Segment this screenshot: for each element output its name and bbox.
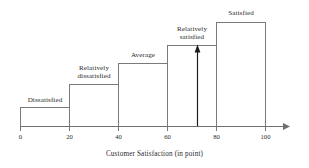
bar-label-dissatisfied: Dissatisfied xyxy=(12,96,78,104)
bar-label-relatively-dissatisfied: Relatively dissatisfied xyxy=(60,64,128,81)
tick-label-100: 100 xyxy=(253,133,278,141)
bar-label-average: Average xyxy=(112,51,174,59)
tick-label-0: 0 xyxy=(8,133,33,141)
bar-label-satisfied: Satisfied xyxy=(209,9,273,17)
tick-label-60: 60 xyxy=(155,133,180,141)
x-axis-arrow-icon xyxy=(283,123,290,130)
bar-dissatisfied xyxy=(21,108,70,127)
x-axis-ticks xyxy=(21,127,266,132)
tick-label-40: 40 xyxy=(106,133,131,141)
bar-series xyxy=(21,23,266,127)
x-axis-caption: Customer Satisfaction (in point) xyxy=(0,150,309,159)
bar-relatively-satisfied xyxy=(168,46,217,127)
bar-relatively-dissatisfied xyxy=(70,85,119,127)
bar-label-relatively-satisfied: Relatively satisfied xyxy=(158,25,226,42)
chart-container: Dissatisfied Relatively dissatisfied Ave… xyxy=(0,0,309,168)
tick-label-80: 80 xyxy=(204,133,229,141)
tick-label-20: 20 xyxy=(57,133,82,141)
chart-plot-area xyxy=(0,0,309,168)
